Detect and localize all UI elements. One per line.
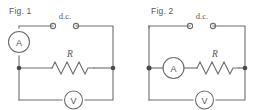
dc-source-label-fig2: d.c.: [196, 11, 208, 21]
wire-bottom-right-fig1: [85, 68, 113, 100]
wire-top-left-fig2: [149, 26, 190, 28]
figure-panel-fig2: Fig. 2: [129, 0, 258, 110]
ammeter-label-fig2: A: [170, 64, 176, 74]
voltmeter-label-fig2: V: [201, 96, 207, 106]
junction-dot-right-fig2: [243, 66, 248, 71]
junction-dot-right-fig1: [111, 66, 116, 71]
circuit-svg-fig1: d.c. A V R: [0, 0, 129, 110]
dc-source-label-fig1: d.c.: [59, 11, 71, 21]
figure-panel-fig1: Fig. 1: [0, 0, 129, 110]
wire-top-right-fig1: [76, 26, 113, 68]
voltmeter-label-fig1: V: [70, 96, 76, 106]
resistor-label-fig1: R: [66, 49, 73, 59]
resistor-symbol-fig2: [197, 62, 239, 74]
resistor-label-fig2: R: [211, 49, 218, 59]
junction-dot-left-fig1: [17, 66, 22, 71]
circuit-svg-fig2: d.c. A V R: [129, 0, 258, 110]
ammeter-label-fig1: A: [16, 38, 22, 48]
wire-top-left-fig1: [19, 26, 53, 28]
resistor-symbol-fig1: [52, 62, 94, 74]
junction-dot-left-fig2: [147, 66, 152, 71]
circuit-diagram-figure-pair: Fig. 1: [0, 0, 258, 110]
wire-top-right-fig2: [213, 26, 245, 68]
